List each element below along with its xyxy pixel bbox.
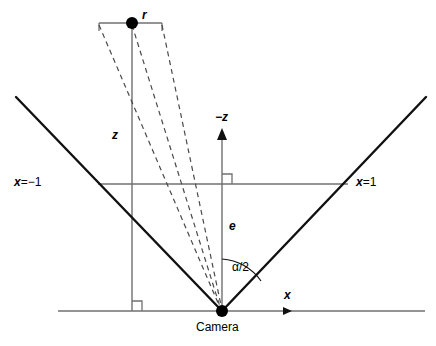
camera-dot <box>216 305 228 317</box>
x-axis-arrowhead <box>283 307 292 315</box>
label-focal-e: e <box>229 220 236 232</box>
right-angle-mark-ground <box>132 301 142 311</box>
label-axis-negz: −z <box>215 111 228 123</box>
label-half-angle: α/2 <box>232 261 249 273</box>
frustum-edge-left <box>16 97 222 311</box>
label-depth-z: z <box>112 129 118 141</box>
label-axis-x: x <box>284 289 291 301</box>
frustum-edge-right <box>222 97 426 311</box>
label-plane-right: x=1 <box>356 176 376 188</box>
label-camera: Camera <box>196 321 239 333</box>
diagram-figure: r z −z e α/2 x x=−1 x=1 Camera <box>0 0 436 346</box>
ray-dashed-right <box>162 25 222 310</box>
label-plane-right-var: x <box>356 175 363 189</box>
label-plane-left-value: =−1 <box>21 175 42 189</box>
ray-dashed-center <box>132 25 221 310</box>
ray-dashed-left <box>99 25 221 310</box>
right-angle-mark-plane <box>222 174 232 184</box>
diagram-canvas <box>0 0 436 346</box>
label-plane-left: x=−1 <box>14 176 41 188</box>
point-r-dot <box>126 17 138 29</box>
label-plane-right-value: =1 <box>363 175 377 189</box>
label-point-r: r <box>142 9 147 21</box>
label-plane-left-var: x <box>14 175 21 189</box>
negz-arrowhead <box>217 128 227 140</box>
